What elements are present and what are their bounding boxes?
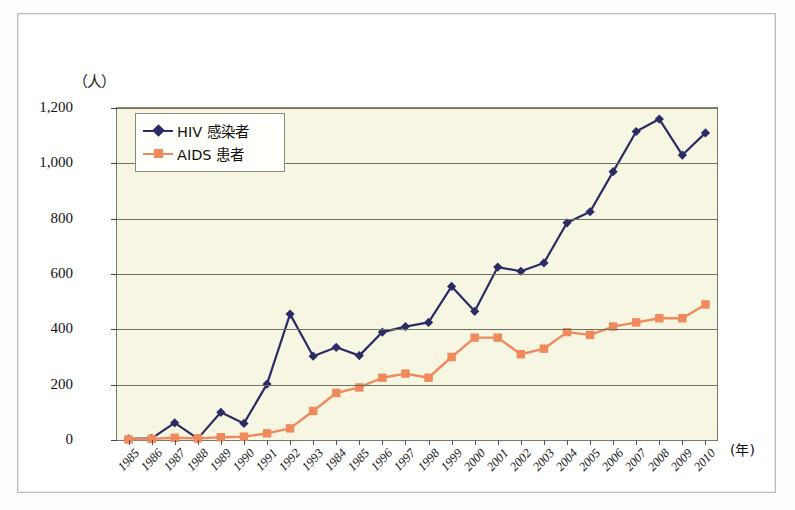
x-axis-tick-mark bbox=[405, 440, 406, 445]
y-axis-tick-label: 0 bbox=[66, 431, 74, 448]
aids-data-point bbox=[263, 429, 271, 437]
x-axis-tick-mark bbox=[290, 440, 291, 445]
y-axis-tick-mark bbox=[111, 219, 117, 220]
y-axis-tick-label: 800 bbox=[51, 209, 74, 226]
aids-data-point bbox=[632, 318, 640, 326]
x-axis-tick-mark bbox=[267, 440, 268, 445]
x-axis-tick-mark bbox=[452, 440, 453, 445]
aids-data-point bbox=[470, 333, 478, 341]
hiv-series-icon bbox=[143, 125, 173, 137]
x-axis-tick-mark bbox=[659, 440, 660, 445]
aids-data-point bbox=[701, 300, 709, 308]
aids-data-point bbox=[401, 369, 409, 377]
y-axis-tick-mark bbox=[111, 108, 117, 109]
y-axis-tick-label: 400 bbox=[51, 320, 74, 337]
aids-data-point bbox=[540, 345, 548, 353]
hiv-data-point bbox=[493, 262, 502, 271]
aids-data-point bbox=[309, 407, 317, 415]
x-axis-tick-mark bbox=[313, 440, 314, 445]
x-axis-tick-mark bbox=[590, 440, 591, 445]
hiv-data-point bbox=[632, 127, 641, 136]
x-axis-tick-mark bbox=[429, 440, 430, 445]
hiv-data-point bbox=[309, 352, 318, 361]
legend-label-hiv: HIV 感染者 bbox=[177, 120, 249, 141]
hiv-data-point bbox=[332, 343, 341, 352]
x-axis-tick-mark bbox=[498, 440, 499, 445]
y-axis-tick-mark bbox=[111, 385, 117, 386]
y-axis-unit-label: （人） bbox=[73, 70, 115, 91]
hiv-data-point bbox=[585, 207, 594, 216]
y-axis-tick-mark bbox=[111, 274, 117, 275]
x-axis-tick-mark bbox=[682, 440, 683, 445]
x-axis-tick-mark bbox=[175, 440, 176, 445]
aids-data-point bbox=[655, 314, 663, 322]
x-axis-tick-mark bbox=[359, 440, 360, 445]
hiv-data-point bbox=[539, 258, 548, 267]
x-axis-tick-mark bbox=[382, 440, 383, 445]
aids-series-icon bbox=[143, 148, 173, 160]
hiv-data-point bbox=[609, 167, 618, 176]
y-axis-tick-mark bbox=[111, 329, 117, 330]
aids-data-point bbox=[286, 424, 294, 432]
gridline bbox=[117, 329, 717, 330]
gridline bbox=[117, 219, 717, 220]
legend-label-aids: AIDS 患者 bbox=[177, 143, 244, 164]
gridline bbox=[117, 274, 717, 275]
aids-data-point bbox=[447, 353, 455, 361]
y-axis-tick-label: 600 bbox=[51, 265, 74, 282]
aids-data-point bbox=[424, 374, 432, 382]
x-axis-unit-label: (年) bbox=[730, 439, 755, 459]
x-axis-tick-mark bbox=[336, 440, 337, 445]
x-axis-tick-mark bbox=[705, 440, 706, 445]
chart-card: （人） (年) HIV 感染者 AIDS 患者 02004006008001, bbox=[17, 13, 776, 493]
x-axis-tick-mark bbox=[152, 440, 153, 445]
chart-legend: HIV 感染者 AIDS 患者 bbox=[135, 113, 285, 172]
x-axis-tick-mark bbox=[475, 440, 476, 445]
x-axis-tick-mark bbox=[244, 440, 245, 445]
aids-data-point bbox=[517, 350, 525, 358]
x-axis-tick-mark bbox=[544, 440, 545, 445]
legend-item-aids: AIDS 患者 bbox=[143, 142, 277, 165]
x-axis-tick-mark bbox=[613, 440, 614, 445]
gridline bbox=[117, 385, 717, 386]
x-axis-tick-mark bbox=[521, 440, 522, 445]
x-axis-tick-mark bbox=[129, 440, 130, 445]
aids-data-point bbox=[332, 389, 340, 397]
x-axis-tick-mark bbox=[221, 440, 222, 445]
aids-data-point bbox=[494, 333, 502, 341]
y-axis-tick-mark bbox=[111, 163, 117, 164]
x-axis-tick-mark bbox=[567, 440, 568, 445]
legend-item-hiv: HIV 感染者 bbox=[143, 119, 277, 142]
aids-data-point bbox=[678, 314, 686, 322]
x-axis-tick-mark bbox=[636, 440, 637, 445]
gridline bbox=[117, 108, 717, 109]
y-axis-tick-label: 1,200 bbox=[39, 99, 73, 116]
aids-data-point bbox=[378, 374, 386, 382]
x-axis-tick-mark bbox=[198, 440, 199, 445]
chart-page: （人） (年) HIV 感染者 AIDS 患者 02004006008001, bbox=[0, 0, 795, 510]
y-axis-tick-label: 200 bbox=[51, 375, 74, 392]
hiv-data-point bbox=[285, 310, 294, 319]
y-axis-tick-label: 1,000 bbox=[39, 154, 73, 171]
y-axis-tick-mark bbox=[111, 440, 117, 441]
hiv-data-point bbox=[239, 419, 248, 428]
aids-data-point bbox=[586, 331, 594, 339]
